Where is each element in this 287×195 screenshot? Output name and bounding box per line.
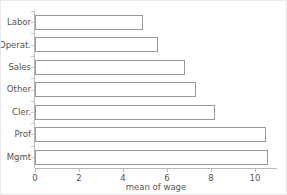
bar[interactable]	[35, 127, 266, 142]
y-axis-tick	[31, 56, 35, 57]
bar[interactable]	[35, 60, 185, 75]
y-axis-category-label: Operat.	[0, 40, 31, 49]
y-axis-tick	[31, 90, 35, 91]
x-axis-tick	[79, 168, 80, 172]
x-axis-tick	[255, 168, 256, 172]
y-axis-category-label: Cler.	[12, 108, 31, 117]
bar[interactable]	[35, 37, 158, 52]
x-axis-tick-label: 8	[208, 174, 213, 183]
x-axis-tick	[35, 168, 36, 172]
bar-row: Prof	[35, 123, 277, 145]
bar[interactable]	[35, 82, 196, 97]
x-axis-tick	[167, 168, 168, 172]
y-axis-tick	[31, 112, 35, 113]
y-axis-category-label: Mgmt	[7, 153, 31, 162]
bar-row: Sales	[35, 56, 277, 78]
plot-area: LaborOperat.SalesOtherCler.ProfMgmt	[35, 11, 277, 168]
x-axis-tick-label: 2	[76, 174, 81, 183]
bar[interactable]	[35, 105, 215, 120]
y-axis-tick	[31, 78, 35, 79]
bar[interactable]	[35, 15, 143, 30]
x-axis-line	[35, 168, 277, 169]
y-axis-tick	[31, 22, 35, 23]
bar-row: Labor	[35, 11, 277, 33]
x-axis-tick-label: 6	[164, 174, 169, 183]
bar[interactable]	[35, 150, 268, 165]
x-axis-tick	[211, 168, 212, 172]
y-axis-tick	[31, 67, 35, 68]
y-axis-tick	[31, 134, 35, 135]
y-axis-category-label: Labor	[7, 18, 31, 27]
y-axis-category-label: Prof	[15, 130, 31, 139]
bar-row: Cler.	[35, 101, 277, 123]
y-axis-tick	[31, 123, 35, 124]
x-axis-tick-label: 0	[32, 174, 37, 183]
y-axis-tick	[31, 101, 35, 102]
x-axis-tick-label: 4	[120, 174, 125, 183]
bar-row: Mgmt	[35, 146, 277, 168]
bar-row: Operat.	[35, 33, 277, 55]
y-axis-tick	[31, 157, 35, 158]
bar-chart-figure: LaborOperat.SalesOtherCler.ProfMgmt mean…	[0, 0, 287, 195]
y-axis-category-label: Sales	[8, 63, 31, 72]
x-axis-title: mean of wage	[35, 183, 277, 192]
y-axis-tick	[31, 11, 35, 12]
y-axis-tick	[31, 33, 35, 34]
x-axis-tick-label: 10	[250, 174, 261, 183]
y-axis-tick	[31, 146, 35, 147]
y-axis-tick	[31, 45, 35, 46]
y-axis-category-label: Other	[7, 85, 31, 94]
bar-row: Other	[35, 78, 277, 100]
x-axis-tick	[123, 168, 124, 172]
